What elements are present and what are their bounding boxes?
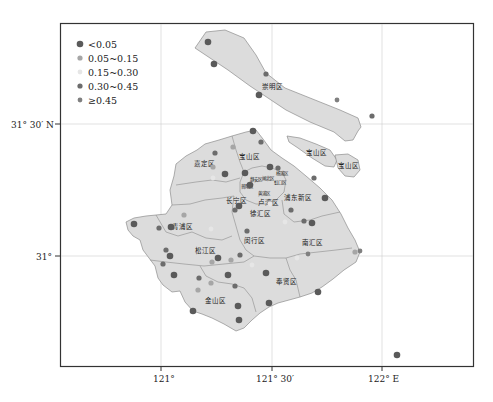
sampling-point	[205, 39, 212, 46]
sampling-point	[242, 170, 249, 177]
sampling-point	[250, 263, 255, 268]
legend-marker-005-015	[77, 55, 82, 60]
sampling-point	[196, 275, 201, 280]
district-label: 宝山区	[306, 148, 327, 157]
sampling-point	[232, 207, 237, 212]
sampling-point	[250, 128, 257, 135]
x-tick-label: 122° E	[368, 374, 399, 384]
sampling-point	[247, 182, 254, 189]
sampling-point	[315, 289, 322, 296]
sampling-point	[256, 92, 263, 99]
legend-label: 0.30~0.45	[88, 81, 138, 92]
sampling-point	[352, 249, 357, 254]
district-label: 长宁区	[226, 196, 247, 205]
sampling-point	[267, 164, 274, 171]
sampling-point	[160, 261, 165, 266]
y-tick-label: 31°	[36, 252, 52, 262]
district-label: 崇明区	[262, 83, 283, 91]
sampling-point	[263, 270, 270, 277]
district-label: 宝山区	[239, 152, 260, 161]
sampling-point	[322, 195, 329, 202]
sampling-point	[311, 175, 316, 180]
sampling-point	[394, 352, 401, 359]
district-label: 闵行区	[244, 236, 265, 245]
legend-marker-lt005	[77, 41, 84, 48]
legend-label: 0.05~0.15	[88, 53, 138, 64]
district-label: 金山区	[205, 296, 226, 305]
sampling-point	[211, 176, 216, 181]
district-label: 杨浦区	[276, 170, 289, 177]
sampling-point	[181, 212, 186, 217]
sampling-point	[275, 165, 280, 170]
legend-marker-015-030	[78, 70, 83, 75]
x-tick-label: 121° 30′	[256, 374, 294, 384]
legend-marker-ge045	[78, 98, 83, 103]
sampling-point	[209, 259, 214, 264]
sampling-point	[230, 144, 235, 149]
sampling-point	[268, 202, 273, 207]
sampling-point	[195, 287, 200, 292]
sampling-point	[190, 308, 197, 315]
sampling-point	[222, 171, 229, 178]
sampling-point	[258, 139, 263, 144]
sampling-point	[232, 283, 237, 288]
sampling-site-map: 崇明区 宝山区 宝山区 宝山区 嘉定区 浦东新区 长宁区 卢湾区 徐汇区 青浦区…	[0, 0, 493, 402]
x-tick-label: 121°	[153, 374, 175, 384]
sampling-point	[208, 280, 213, 285]
sampling-point	[236, 317, 243, 324]
sampling-point	[210, 164, 215, 169]
sampling-point	[167, 253, 174, 260]
sampling-point	[168, 224, 175, 231]
sampling-point	[225, 272, 232, 279]
sampling-point	[369, 113, 374, 118]
sampling-point	[263, 71, 268, 76]
sampling-point	[235, 303, 242, 310]
district-label: 徐汇区	[250, 209, 271, 218]
district-label: 黄浦区	[258, 190, 271, 197]
district-label: 浦东新区	[284, 193, 312, 202]
sampling-point	[358, 249, 363, 254]
sampling-point	[306, 252, 311, 257]
sampling-point	[335, 98, 340, 103]
district-label: 松江区	[195, 246, 216, 255]
sampling-point	[237, 252, 242, 257]
district-label: 南汇区	[302, 238, 323, 247]
sampling-point	[295, 256, 300, 261]
y-tick-label: 31° 30′ N	[11, 120, 54, 130]
sampling-point	[171, 272, 178, 279]
sampling-point	[266, 300, 273, 307]
sampling-point	[212, 150, 217, 155]
legend-marker-030-045	[77, 83, 82, 88]
sampling-point	[283, 220, 288, 225]
sampling-point	[131, 221, 138, 228]
sampling-point	[156, 225, 161, 230]
district-label: 奉贤区	[276, 277, 297, 286]
sampling-point	[309, 220, 316, 227]
sampling-point	[228, 257, 233, 262]
district-label: 青浦区	[172, 222, 193, 231]
legend-label: ≥0.45	[88, 95, 117, 106]
sampling-point	[244, 228, 249, 233]
legend-label: 0.15~0.30	[88, 67, 138, 78]
district-label: 宝山区	[338, 161, 359, 170]
sampling-point	[301, 218, 306, 223]
legend-label: <0.05	[88, 39, 117, 50]
sampling-point	[209, 227, 214, 232]
sampling-point	[211, 61, 218, 68]
sampling-point	[288, 207, 293, 212]
sampling-point	[215, 255, 222, 262]
sampling-point	[163, 247, 168, 252]
district-label: 虹口区	[274, 179, 287, 186]
